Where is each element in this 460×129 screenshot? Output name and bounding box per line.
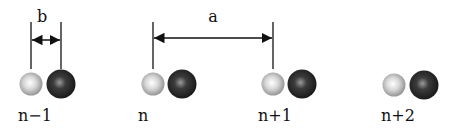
site-n-minus-1: n−1 (18, 70, 76, 126)
light-atom (383, 74, 406, 97)
site-n: n (138, 70, 197, 126)
site-n-plus-1: n+1 (258, 70, 317, 126)
dimension-a: a (153, 7, 273, 69)
b-label: b (37, 7, 47, 26)
dark-atom (410, 71, 439, 100)
site-n-plus-2: n+2 (381, 71, 439, 126)
site-label: n (138, 106, 148, 125)
light-atom (20, 73, 43, 96)
dark-atom (47, 70, 76, 99)
dimension-b: b (31, 7, 61, 69)
light-atom (262, 73, 285, 96)
a-label: a (208, 7, 218, 26)
light-atom (142, 73, 165, 96)
site-label: n+2 (381, 106, 415, 125)
lattice-diagram: b a n−1 n n+1 n+2 (0, 0, 460, 129)
site-label: n+1 (258, 106, 292, 125)
site-label: n−1 (18, 106, 52, 125)
dark-atom (168, 70, 197, 99)
dark-atom (288, 70, 317, 99)
